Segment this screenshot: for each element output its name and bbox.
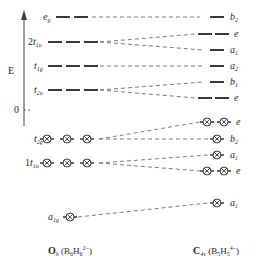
label-e-upper: e bbox=[234, 29, 238, 39]
level-b2-occ bbox=[210, 135, 224, 143]
oh-levels bbox=[48, 17, 98, 90]
level-e-occ-1 bbox=[200, 118, 231, 126]
zero-label: 0 bbox=[14, 105, 19, 115]
level-1t1u bbox=[40, 159, 94, 167]
level-a1-occ-1 bbox=[210, 151, 224, 159]
level-t2g bbox=[40, 135, 94, 143]
level-e-occ-2 bbox=[200, 167, 231, 175]
caption-c4v: C4v (B5H54−) bbox=[193, 243, 239, 259]
label-a1-occ-2: a1 bbox=[230, 198, 238, 211]
label-a1g: a1g bbox=[48, 212, 59, 225]
label-2t1u: 2t1u bbox=[28, 37, 42, 50]
c4v-levels bbox=[198, 17, 229, 98]
arrow-up-icon bbox=[21, 10, 27, 20]
c4v-occupied-levels bbox=[200, 118, 231, 207]
label-e-occ-1: e bbox=[236, 117, 240, 127]
mo-correlation-diagram: E 0 eg 2t1u t1g t2u t2g 1t1u a1g b2 e a1… bbox=[0, 0, 256, 263]
label-1t1u: 1t1u bbox=[25, 158, 39, 171]
energy-axis bbox=[21, 10, 32, 126]
label-e-occ-2: e bbox=[236, 166, 240, 176]
label-eg: eg bbox=[43, 12, 50, 25]
label-b2-upper: b2 bbox=[230, 12, 238, 25]
label-t2g: t2g bbox=[34, 134, 43, 147]
label-a2: a2 bbox=[230, 61, 238, 74]
label-e-mid: e bbox=[234, 93, 238, 103]
level-a1g bbox=[63, 213, 77, 221]
label-t1g: t1g bbox=[34, 61, 43, 74]
label-b1: b1 bbox=[230, 77, 238, 90]
oh-occupied-levels bbox=[40, 135, 94, 221]
level-a1-occ-2 bbox=[210, 199, 224, 207]
label-a1-upper: a1 bbox=[230, 45, 238, 58]
energy-axis-label: E bbox=[8, 66, 14, 76]
label-t2u: t2u bbox=[34, 85, 43, 98]
label-b2-occ: b2 bbox=[230, 134, 238, 147]
caption-oh: Oh (B6H62−) bbox=[48, 243, 92, 259]
label-a1-occ-1: a1 bbox=[230, 150, 238, 163]
correlation-lines bbox=[78, 17, 208, 217]
